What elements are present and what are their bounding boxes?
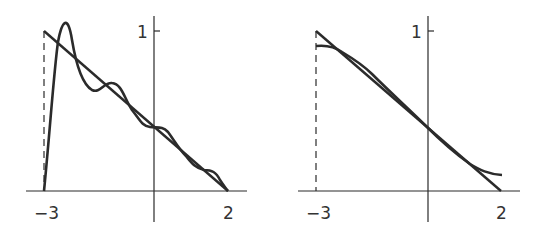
right-smooth-curve — [316, 46, 502, 175]
left-x-tick-label-2: 2 — [223, 203, 234, 223]
left-y-tick-label-1: 1 — [137, 22, 148, 42]
left-straight-line — [44, 31, 228, 191]
left-panel — [26, 16, 247, 222]
figure: −3 2 1 −3 2 1 — [0, 0, 541, 235]
right-y-tick-label-1: 1 — [411, 22, 422, 42]
left-x-tick-label-neg3: −3 — [34, 203, 59, 223]
right-x-tick-label-neg3: −3 — [306, 203, 331, 223]
right-x-tick-label-2: 2 — [496, 203, 507, 223]
right-panel — [298, 16, 520, 222]
